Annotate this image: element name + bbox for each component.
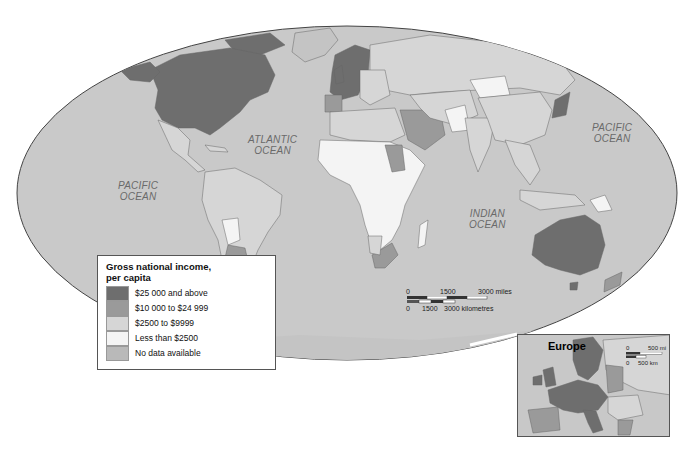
ocean-label-line: OCEAN <box>248 145 297 156</box>
legend-label: $25 000 and above <box>135 288 208 298</box>
inset-scale-km-end: 500 km <box>638 360 658 366</box>
legend-label: Less than $2500 <box>135 333 198 343</box>
scale-km-zero: 0 <box>406 305 410 312</box>
legend-item-2500-9999: $2500 to $9999 <box>106 316 271 331</box>
atlantic-ocean-label: ATLANTIC OCEAN <box>248 134 297 156</box>
legend-item-25000-plus: $25 000 and above <box>106 286 271 301</box>
ocean-label-line: OCEAN <box>118 191 158 202</box>
legend-swatch <box>106 286 129 301</box>
inset-scale-mi-zero: 0 <box>626 345 629 351</box>
world-map: PACIFIC OCEAN ATLANTIC OCEAN INDIAN OCEA… <box>0 0 694 457</box>
pacific-ocean-label-west: PACIFIC OCEAN <box>118 180 158 202</box>
legend-swatch <box>106 331 129 346</box>
legend-label: $10 000 to $24 999 <box>135 303 208 313</box>
inset-scale-km-zero: 0 <box>626 360 629 366</box>
legend-item-10000-24999: $10 000 to $24 999 <box>106 301 271 316</box>
ocean-label-line: INDIAN <box>469 208 506 219</box>
scale-miles-zero: 0 <box>406 288 410 295</box>
ocean-label-line: PACIFIC <box>118 180 158 191</box>
legend-label: No data available <box>135 348 201 358</box>
inset-scale-bar <box>626 352 666 360</box>
ocean-label-line: OCEAN <box>592 133 632 144</box>
legend-title-line: Gross national income, <box>106 261 211 272</box>
legend-title: Gross national income, per capita <box>106 261 211 283</box>
legend-swatch <box>106 346 129 361</box>
legend-item-no-data: No data available <box>106 346 271 361</box>
scale-km-mid: 1500 <box>422 305 438 312</box>
legend: Gross national income, per capita $25 00… <box>97 255 276 370</box>
inset-title: Europe <box>548 340 586 352</box>
ocean-label-line: OCEAN <box>469 219 506 230</box>
pacific-ocean-label-east: PACIFIC OCEAN <box>592 122 632 144</box>
scale-miles-end: 3000 miles <box>478 288 512 295</box>
legend-swatch <box>106 316 129 331</box>
scale-miles-mid: 1500 <box>440 288 456 295</box>
scale-km-end: 3000 kilometres <box>444 305 493 312</box>
scale-bar: 0 1500 3000 miles 0 1500 3000 kilometres <box>406 288 526 314</box>
indian-ocean-label: INDIAN OCEAN <box>469 208 506 230</box>
europe-inset-map: Europe 0 500 mi 0 500 km <box>517 334 670 437</box>
legend-title-line: per capita <box>106 272 211 283</box>
legend-item-less-2500: Less than $2500 <box>106 331 271 346</box>
legend-swatch <box>106 301 129 316</box>
ocean-label-line: PACIFIC <box>592 122 632 133</box>
inset-scale-mi-end: 500 mi <box>648 345 666 351</box>
ocean-label-line: ATLANTIC <box>248 134 297 145</box>
legend-label: $2500 to $9999 <box>135 318 194 328</box>
